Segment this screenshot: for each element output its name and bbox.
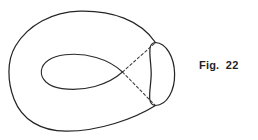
figure-container: Fig. 22 [0,0,258,140]
figure-caption: Fig. 22 [199,58,255,72]
outer-body-outline-path [9,11,156,131]
inner-hole-upper-curve-path [41,54,122,72]
cross-section-ellipse-path [150,43,175,106]
inner-hole-lower-curve-path [41,71,122,90]
